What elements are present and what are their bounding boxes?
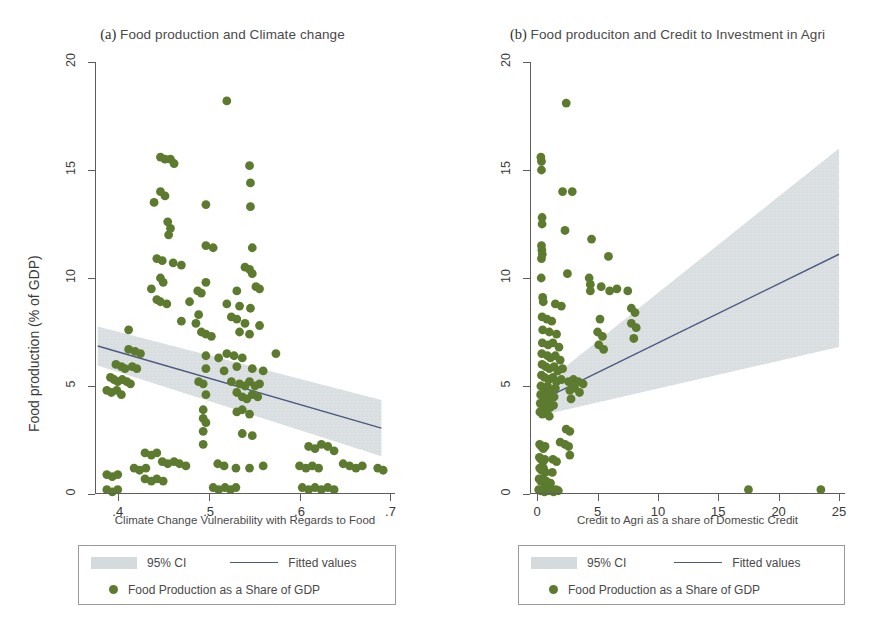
scatter-point	[214, 354, 223, 363]
y-tick-label: 15	[492, 161, 520, 175]
panel-a: (a) Food production and Climate change F…	[0, 0, 445, 630]
scatter-point	[556, 356, 565, 365]
scatter-point	[177, 261, 186, 270]
scatter-point	[159, 477, 168, 486]
scatter-point	[330, 446, 339, 455]
y-tick	[523, 170, 530, 171]
x-tick	[390, 494, 391, 501]
y-axis-title: Food production (% of GDP)	[26, 255, 42, 432]
y-tick	[88, 170, 95, 171]
ci-band-swatch-icon	[91, 557, 137, 569]
scatter-point	[222, 96, 231, 105]
scatter-point	[248, 364, 257, 373]
scatter-point	[147, 284, 156, 293]
scatter-point	[255, 284, 264, 293]
scatter-point	[142, 464, 151, 473]
scatter-point	[562, 99, 571, 108]
scatter-dot-swatch-icon	[109, 585, 118, 594]
scatter-point	[209, 243, 218, 252]
y-tick	[523, 386, 530, 387]
scatter-point	[202, 200, 211, 209]
scatter-point	[248, 431, 257, 440]
scatter-point	[557, 302, 566, 311]
scatter-point	[565, 427, 574, 436]
panel-b-data-layer	[530, 62, 845, 494]
panel-a-legend: 95% CI Fitted values Food Production as …	[78, 545, 396, 605]
y-tick-label: 10	[57, 269, 85, 283]
scatter-point	[598, 332, 607, 341]
fitted-line-swatch-icon	[674, 562, 722, 563]
y-tick	[88, 494, 95, 495]
scatter-point	[199, 427, 208, 436]
scatter-point	[550, 392, 559, 401]
scatter-point	[358, 462, 367, 471]
scatter-point	[259, 462, 268, 471]
scatter-point	[238, 354, 247, 363]
scatter-point	[540, 455, 549, 464]
scatter-point	[255, 321, 264, 330]
panel-a-plot-area: 05101520.4.5.6.7	[95, 62, 395, 494]
ci-band-swatch-icon	[531, 557, 577, 569]
legend-row-ci-fit: 95% CI Fitted values	[79, 549, 395, 576]
y-tick	[88, 386, 95, 387]
scatter-point	[314, 464, 323, 473]
scatter-point	[248, 269, 257, 278]
scatter-point	[152, 449, 161, 458]
figure-root: (a) Food production and Climate change F…	[0, 0, 890, 630]
panel-a-y-axis	[95, 62, 96, 494]
y-tick	[88, 278, 95, 279]
scatter-point	[629, 334, 638, 343]
x-tick	[658, 494, 659, 501]
scatter-point	[232, 287, 241, 296]
scatter-point	[185, 297, 194, 306]
y-tick-label: 15	[57, 161, 85, 175]
y-tick	[523, 62, 530, 63]
scatter-point	[245, 464, 254, 473]
scatter-point	[567, 395, 576, 404]
x-tick	[209, 494, 210, 501]
scatter-point	[162, 300, 171, 309]
scatter-point	[192, 319, 201, 328]
y-tick-label: 0	[492, 485, 520, 499]
x-tick	[839, 494, 840, 501]
scatter-point	[199, 440, 208, 449]
scatter-point	[612, 284, 621, 293]
scatter-point	[161, 192, 170, 201]
y-tick-label: 5	[492, 377, 520, 391]
scatter-point	[597, 282, 606, 291]
x-tick	[718, 494, 719, 501]
scatter-point	[202, 351, 211, 360]
panel-b-tag: (b)	[510, 26, 527, 42]
scatter-point	[379, 466, 388, 475]
scatter-point	[227, 377, 236, 386]
scatter-point	[202, 390, 211, 399]
scatter-point	[202, 278, 211, 287]
scatter-point	[245, 330, 254, 339]
scatter-point	[537, 254, 546, 263]
scatter-point	[551, 384, 560, 393]
scatter-point	[541, 442, 550, 451]
panel-a-x-axis	[95, 493, 395, 494]
scatter-point	[197, 289, 206, 298]
scatter-point	[230, 351, 239, 360]
scatter-point	[113, 470, 122, 479]
scatter-point	[537, 166, 546, 175]
scatter-point	[558, 187, 567, 196]
scatter-point	[177, 317, 186, 326]
scatter-point	[558, 364, 567, 373]
panel-a-tag: (a)	[100, 26, 116, 42]
scatter-point	[246, 304, 255, 313]
scatter-point	[164, 230, 173, 239]
y-tick-label: 10	[492, 269, 520, 283]
scatter-point	[586, 287, 595, 296]
x-tick	[598, 494, 599, 501]
scatter-point	[596, 315, 605, 324]
x-tick	[779, 494, 780, 501]
panel-a-data-layer	[95, 62, 395, 494]
scatter-point	[599, 345, 608, 354]
x-tick	[300, 494, 301, 501]
x-tick	[537, 494, 538, 501]
legend-label-fitted: Fitted values	[288, 556, 356, 570]
scatter-point	[202, 418, 211, 427]
scatter-point	[235, 302, 244, 311]
